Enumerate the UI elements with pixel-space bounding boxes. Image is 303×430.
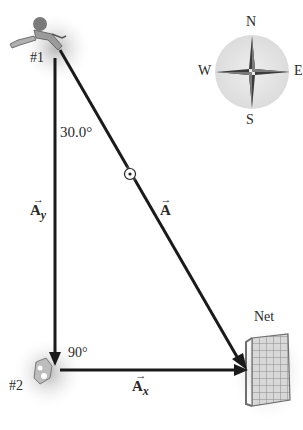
soccer-ball-icon [121, 165, 139, 183]
vector-ax-label: → Ax [132, 378, 149, 395]
vector-ay-label: → Ay [30, 202, 46, 219]
vector-arrow-glyph: → [30, 193, 46, 205]
player-1-label: #1 [30, 50, 44, 66]
player-2-label: #2 [9, 378, 23, 394]
right-angle-label: 90° [68, 345, 88, 361]
compass-north-label: N [246, 14, 256, 30]
compass-west-label: W [198, 63, 211, 79]
compass-south-label: S [246, 112, 254, 128]
vector-arrow-glyph: → [132, 369, 149, 381]
vector-ay-arrow [49, 58, 61, 366]
vector-arrow-glyph: → [160, 193, 171, 205]
compass-east-label: E [294, 63, 303, 79]
angle-label: 30.0° [60, 124, 92, 141]
vector-diagram: #1 #2 30.0° 90° Net N S W E → Ay → A → A… [0, 0, 303, 430]
goal-net-graphic [246, 334, 290, 406]
vector-a-label: → A [160, 202, 171, 219]
compass-rose-icon [215, 35, 290, 109]
vector-ax-arrow [60, 364, 248, 376]
vector-a-arrow [60, 50, 247, 370]
net-label: Net [254, 309, 274, 325]
